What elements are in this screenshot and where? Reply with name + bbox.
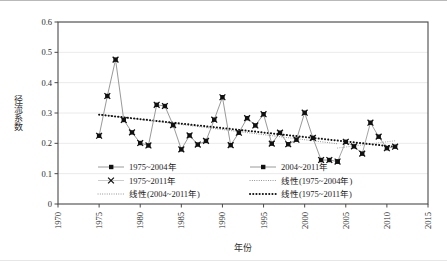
- legend-label: 线性(1975~2011年): [281, 189, 352, 199]
- gridlines: [58, 22, 428, 174]
- y-tick-label: 0.3: [41, 108, 52, 118]
- y-tick-label: 0.6: [41, 17, 52, 27]
- chart-legend: 1975~2004年1975~2011年线性(2004~2011年)2004~2…: [98, 162, 352, 199]
- x-tick-label: 1980: [135, 212, 145, 229]
- y-tick-label: 0.2: [41, 138, 52, 148]
- x-axis-ticks: 1970197519801985199019952000200520102015: [53, 204, 433, 229]
- y-axis-title: 径流系数: [13, 94, 23, 132]
- x-tick-label: 2005: [341, 212, 351, 229]
- legend-marker-square: [261, 165, 265, 169]
- legend-item[interactable]: 2004~2011年: [250, 162, 328, 172]
- y-tick-label: 0: [48, 199, 52, 209]
- data-series-group: [96, 57, 398, 165]
- legend-label: 2004~2011年: [281, 162, 328, 172]
- x-tick-label: 1985: [176, 212, 186, 229]
- legend-item[interactable]: 1975~2004年: [98, 162, 177, 172]
- y-tick-label: 0.4: [41, 78, 52, 88]
- y-tick-label: 0.1: [41, 169, 52, 179]
- legend-marker-square: [109, 165, 113, 169]
- legend-label: 线性(1975~2004年): [281, 176, 352, 186]
- legend-label: 1975~2011年: [129, 176, 176, 186]
- x-tick-label: 2015: [423, 212, 433, 229]
- legend-item[interactable]: 线性(1975~2004年): [250, 176, 352, 186]
- y-tick-label: 0.5: [41, 47, 52, 57]
- runoff-coefficient-line-chart: 00.10.20.30.40.50.6 19701975198019851990…: [0, 1, 447, 261]
- legend-label: 1975~2004年: [129, 162, 177, 172]
- legend-label: 线性(2004~2011年): [129, 189, 200, 199]
- y-axis-ticks: 00.10.20.30.40.50.6: [41, 17, 58, 209]
- legend-item[interactable]: 1975~2011年: [98, 176, 176, 186]
- x-tick-label: 1990: [217, 212, 227, 229]
- x-tick-label: 1970: [53, 212, 63, 229]
- x-tick-label: 1995: [259, 212, 269, 229]
- x-axis-title: 年份: [234, 242, 252, 253]
- x-tick-label: 2000: [300, 212, 310, 229]
- chart-figure: 00.10.20.30.40.50.6 19701975198019851990…: [0, 0, 447, 261]
- x-tick-label: 1975: [94, 212, 104, 229]
- x-tick-label: 2010: [382, 212, 392, 229]
- legend-item[interactable]: 线性(1975~2011年): [250, 189, 352, 199]
- legend-item[interactable]: 线性(2004~2011年): [98, 189, 200, 199]
